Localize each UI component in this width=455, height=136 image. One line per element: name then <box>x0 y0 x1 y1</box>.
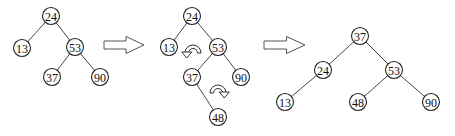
rotation-arrow-left-icon <box>182 45 201 58</box>
transition-arrow-2-icon <box>264 37 305 54</box>
tree-after-insert-48: 241353379048 <box>161 8 250 126</box>
node-label: 24 <box>45 10 57 24</box>
node-label: 13 <box>163 41 175 55</box>
arrows-layer <box>104 37 305 99</box>
node-label: 37 <box>186 71 198 85</box>
tree-node-53: 53 <box>210 39 227 56</box>
node-label: 48 <box>352 96 364 110</box>
node-label: 24 <box>186 10 198 24</box>
tree-before-insert: 2413533790 <box>14 8 109 86</box>
tree-after-rotation: 372453134890 <box>277 28 440 111</box>
nodes-layer: 2413533790241353379048372453134890 <box>14 8 440 126</box>
node-label: 24 <box>317 64 329 78</box>
rotation-arrow-right-icon <box>210 85 229 98</box>
node-label: 90 <box>235 71 247 85</box>
tree-node-24: 24 <box>315 62 332 79</box>
tree-node-24: 24 <box>43 8 60 25</box>
transition-arrow-1-icon <box>104 37 144 54</box>
node-label: 90 <box>94 71 106 85</box>
avl-rotation-diagram: 2413533790241353379048372453134890 <box>0 0 455 136</box>
tree-node-13: 13 <box>14 40 31 57</box>
tree-node-48: 48 <box>210 109 227 126</box>
node-label: 90 <box>425 96 437 110</box>
tree-node-90: 90 <box>423 94 440 111</box>
node-label: 37 <box>354 30 366 44</box>
tree-node-53: 53 <box>386 62 403 79</box>
tree-node-13: 13 <box>277 94 294 111</box>
tree-node-90: 90 <box>92 69 109 86</box>
tree-node-90: 90 <box>233 69 250 86</box>
tree-node-13: 13 <box>161 39 178 56</box>
diagram-canvas: 2413533790241353379048372453134890 <box>0 0 455 136</box>
tree-node-37: 37 <box>184 69 201 86</box>
tree-node-53: 53 <box>67 39 84 56</box>
tree-node-37: 37 <box>44 69 61 86</box>
node-label: 13 <box>16 42 28 56</box>
node-label: 53 <box>69 41 81 55</box>
edges-layer <box>22 16 431 117</box>
node-label: 53 <box>212 41 224 55</box>
node-label: 13 <box>279 96 291 110</box>
tree-node-24: 24 <box>184 8 201 25</box>
tree-node-48: 48 <box>350 94 367 111</box>
tree-node-37: 37 <box>352 28 369 45</box>
node-label: 53 <box>388 64 400 78</box>
node-label: 37 <box>46 71 58 85</box>
node-label: 48 <box>212 111 224 125</box>
